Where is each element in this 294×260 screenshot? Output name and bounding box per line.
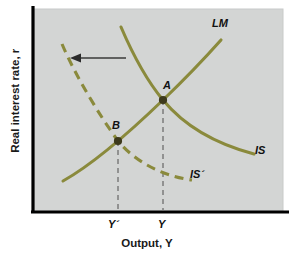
chart-canvas (0, 0, 294, 260)
point-marker-a (159, 96, 167, 104)
curve-label-lm: LM (212, 18, 228, 29)
is-lm-chart-figure: Real interest rate, r Output, Y LM IS IS… (0, 0, 294, 260)
x-tick-label-y: Y (158, 219, 165, 230)
plot-background (33, 9, 283, 212)
y-axis-title: Real interest rate, r (10, 41, 22, 161)
point-marker-b (114, 137, 122, 145)
point-label-b: B (112, 120, 120, 131)
curve-label-is: IS (255, 145, 265, 156)
point-label-a: A (163, 80, 171, 91)
curve-label-is-prime: IS´ (190, 169, 204, 180)
x-axis-title: Output, Y (0, 238, 294, 250)
x-tick-label-y-prime: Y´ (108, 219, 119, 230)
